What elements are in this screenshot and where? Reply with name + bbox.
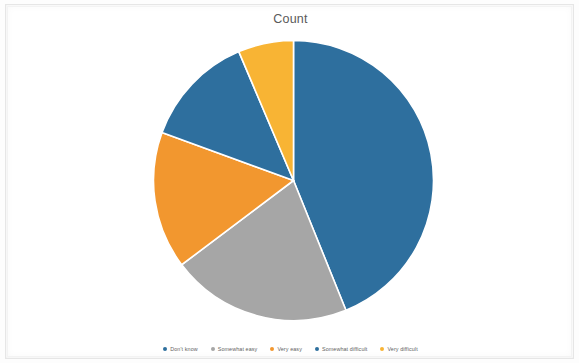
legend-label: Somewhat easy bbox=[218, 347, 258, 352]
legend-label: Don't know bbox=[170, 347, 198, 352]
chart-panel: Count Don't knowSomewhat easyVery easySo… bbox=[5, 4, 574, 359]
legend-item[interactable]: Very easy bbox=[270, 347, 302, 352]
legend-label: Very difficult bbox=[387, 347, 417, 352]
legend-swatch-icon bbox=[380, 347, 384, 351]
legend-item[interactable]: Very difficult bbox=[380, 347, 417, 352]
legend-swatch-icon bbox=[315, 347, 319, 351]
legend-swatch-icon bbox=[163, 347, 167, 351]
legend-item[interactable]: Somewhat easy bbox=[211, 347, 258, 352]
pie-chart bbox=[151, 38, 436, 323]
legend-swatch-icon bbox=[270, 347, 274, 351]
legend-label: Somewhat difficult bbox=[322, 347, 367, 352]
pie-slice-group bbox=[153, 41, 433, 321]
legend-item[interactable]: Somewhat difficult bbox=[315, 347, 367, 352]
legend-item[interactable]: Don't know bbox=[163, 347, 198, 352]
chart-area: Count Don't knowSomewhat easyVery easySo… bbox=[6, 5, 575, 360]
legend-swatch-icon bbox=[211, 347, 215, 351]
chart-legend: Don't knowSomewhat easyVery easySomewhat… bbox=[6, 347, 575, 352]
legend-label: Very easy bbox=[277, 347, 302, 352]
screenshot-root: Count Don't knowSomewhat easyVery easySo… bbox=[0, 0, 579, 363]
chart-title: Count bbox=[6, 12, 575, 26]
pie-chart-svg bbox=[151, 38, 436, 323]
